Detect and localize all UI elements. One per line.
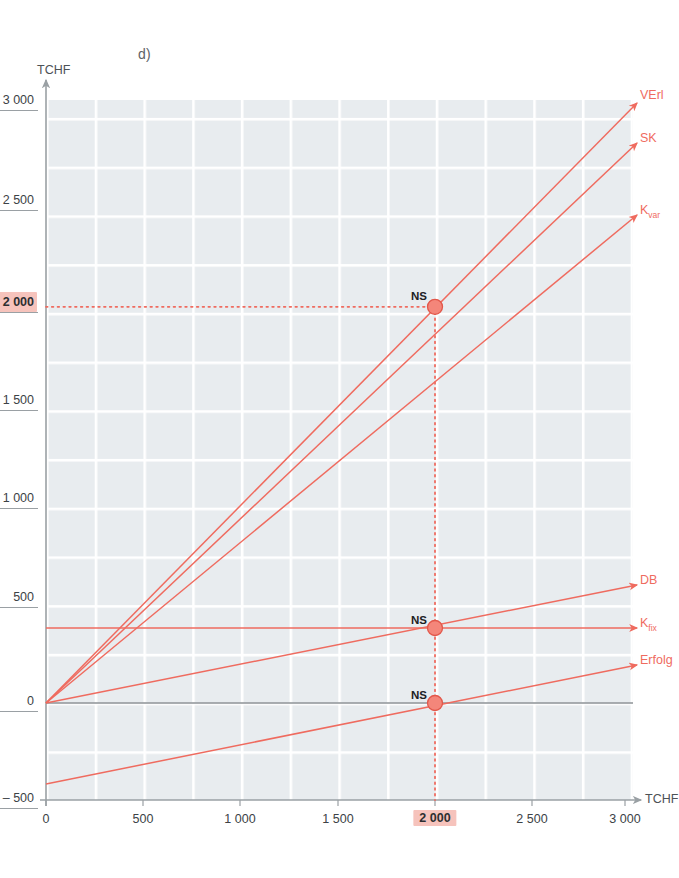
y-tick-1500-label: 1 500	[3, 393, 34, 407]
y-tick-2500-label: 2 500	[3, 193, 34, 207]
ns-marker-kfix	[428, 621, 443, 636]
y-tick-500: 500	[0, 590, 38, 604]
x-tick-2000: 2 000	[413, 810, 456, 826]
x-tick-500: 500	[133, 812, 154, 826]
series-label-erfolg-text: Erfolg	[640, 653, 673, 667]
x-tick-1000: 1 000	[224, 812, 255, 826]
ns-marker-verl	[428, 299, 443, 314]
series-label-verl: VErl	[640, 88, 664, 102]
y-tick-1000: 1 000	[0, 491, 38, 505]
y-tick-3000: 3 000	[0, 93, 38, 107]
y-tick-500-label: 500	[13, 590, 34, 604]
series-label-kvar: Kvar	[640, 203, 660, 220]
x-tick-2500: 2 500	[516, 812, 547, 826]
series-label-kfix: Kfix	[640, 616, 657, 633]
ns-marker-erfolg	[428, 696, 443, 711]
y-tick-2000: 2 000	[0, 295, 38, 309]
y-tick-2000-label: 2 000	[3, 295, 34, 309]
series-label-kvar-sub: var	[648, 210, 660, 220]
ns-label-erfolg: NS	[411, 689, 427, 701]
y-tick-1000-label: 1 000	[3, 491, 34, 505]
x-tick-1500: 1 500	[322, 812, 353, 826]
series-label-verl-text: VErl	[640, 88, 664, 102]
series-label-db: DB	[640, 573, 657, 587]
ns-label-kfix: NS	[411, 614, 427, 626]
x-tick-3000: 3 000	[609, 812, 640, 826]
series-label-erfolg: Erfolg	[640, 653, 673, 667]
plot-svg	[0, 0, 679, 878]
plot-grid	[46, 100, 633, 800]
y-tick-0: 0	[0, 694, 38, 708]
y-tick-0-label: 0	[27, 694, 34, 708]
ns-label-verl: NS	[411, 290, 427, 302]
x-axis-ticks	[46, 800, 625, 806]
y-tick-3000-label: 3 000	[3, 93, 34, 107]
series-label-sk-text: SK	[640, 131, 657, 145]
y-tick-2500: 2 500	[0, 193, 38, 207]
series-label-db-text: DB	[640, 573, 657, 587]
series-label-sk: SK	[640, 131, 657, 145]
y-tick-minus500: – 500	[0, 791, 38, 805]
chart-canvas: d) TCHF TCHF	[0, 0, 679, 878]
x-tick-0: 0	[43, 812, 50, 826]
y-tick-minus500-label: – 500	[3, 791, 34, 805]
series-label-kfix-sub: fix	[648, 623, 657, 633]
y-tick-1500: 1 500	[0, 393, 38, 407]
